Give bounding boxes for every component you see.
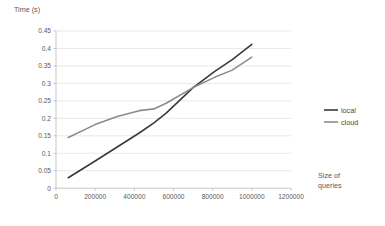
y-tick-label: 0.1 [42,150,51,157]
x-tick-label: 1000000 [239,193,265,200]
legend-label-local: local [341,106,356,115]
series-line-local [68,44,252,177]
y-axis-tick-labels: 00.050.10.150.20.250.30.350.40.45 [38,27,51,191]
y-tick-label: 0.35 [38,62,51,69]
x-axis-tick-labels: 020000040000060000080000010000001200000 [54,193,304,200]
x-axis-title-line1: Size of [318,171,340,180]
data-series [68,44,252,177]
series-line-cloud [68,57,252,137]
x-tick-label: 1200000 [278,193,304,200]
chart-canvas: Time (s) 00.050.10.150.20.250.30.350.40.… [0,0,385,226]
x-tick-label: 400000 [123,193,145,200]
x-tick-label: 0 [54,193,58,200]
x-tick-label: 600000 [162,193,184,200]
y-axis-title: Time (s) [14,5,40,14]
y-tick-label: 0.4 [42,45,51,52]
y-tick-label: 0.05 [38,167,51,174]
y-tick-label: 0.3 [42,80,51,87]
x-tick-label: 800000 [202,193,224,200]
y-tick-label: 0.15 [38,132,51,139]
y-tick-label: 0.2 [42,115,51,122]
x-tick-label: 200000 [84,193,106,200]
x-axis-title-line2: queries [318,181,342,190]
y-tick-label: 0.45 [38,27,51,34]
x-axis-tick-marks [56,188,291,191]
line-chart: Time (s) 00.050.10.150.20.250.30.350.40.… [0,0,385,226]
chart-legend: localcloud [324,106,358,127]
legend-label-cloud: cloud [341,118,358,127]
y-tick-label: 0.25 [38,97,51,104]
y-tick-label: 0 [47,185,51,192]
